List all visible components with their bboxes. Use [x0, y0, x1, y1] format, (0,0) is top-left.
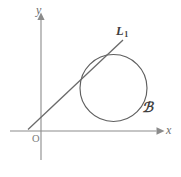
circle-c: [80, 55, 147, 122]
geometry-figure: y x O L1 ℬ: [0, 0, 181, 177]
line-l1-label: L1: [116, 25, 128, 38]
circle-c-label: ℬ: [142, 100, 153, 114]
line-l1-label-letter: L: [116, 24, 124, 38]
y-axis-label: y: [36, 4, 41, 16]
figure-canvas: [0, 0, 181, 177]
line-l1: [28, 40, 123, 130]
x-axis-arrowhead: [157, 127, 165, 134]
origin-label: O: [32, 134, 40, 145]
line-l1-label-subscript: 1: [124, 30, 128, 39]
x-axis-label: x: [166, 124, 171, 136]
